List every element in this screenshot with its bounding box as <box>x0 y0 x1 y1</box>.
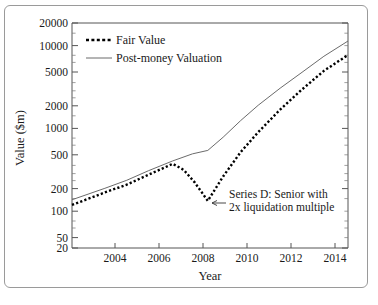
y-tick-label: 2000 <box>45 100 68 112</box>
annotation-text-line-1: Series D: Senior with <box>229 188 328 200</box>
x-axis-tick-labels: 2004 2006 2008 2010 2012 2014 <box>104 252 347 264</box>
x-tick-label: 2006 <box>148 252 171 264</box>
series-fair-value-line <box>72 55 348 205</box>
x-tick-label: 2012 <box>280 252 303 264</box>
series-group <box>72 41 348 205</box>
legend: Fair Value Post-money Valuation <box>86 33 222 65</box>
y-axis-tick-labels: 20000 10000 5000 2000 1000 500 200 100 5… <box>39 17 68 254</box>
annotation-series-d: Series D: Senior with 2x liquidation mul… <box>212 188 334 214</box>
y-tick-label: 5000 <box>45 66 68 78</box>
y-tick-label: 200 <box>51 183 69 195</box>
y-axis-title: Value ($m) <box>13 110 27 166</box>
x-axis-title: Year <box>198 269 222 283</box>
x-tick-label: 2014 <box>324 252 347 264</box>
x-tick-label: 2010 <box>236 252 259 264</box>
y-tick-label: 1000 <box>45 122 68 134</box>
y-tick-label: 500 <box>51 149 69 161</box>
annotation-text-line-2: 2x liquidation multiple <box>229 201 334 214</box>
y-tick-label: 100 <box>51 205 69 217</box>
y-tick-label: 20 <box>57 242 69 254</box>
y-tick-label: 20000 <box>39 17 68 29</box>
x-tick-label: 2008 <box>192 252 215 264</box>
x-tick-label: 2004 <box>104 252 127 264</box>
x-axis-ticks <box>115 243 335 248</box>
chart-svg: 20000 10000 5000 2000 1000 500 200 100 5… <box>0 0 378 305</box>
log-line-chart: 20000 10000 5000 2000 1000 500 200 100 5… <box>0 0 378 305</box>
y-tick-label: 10000 <box>39 40 68 52</box>
legend-label-post-money-valuation: Post-money Valuation <box>116 51 222 65</box>
legend-label-fair-value: Fair Value <box>116 33 165 47</box>
